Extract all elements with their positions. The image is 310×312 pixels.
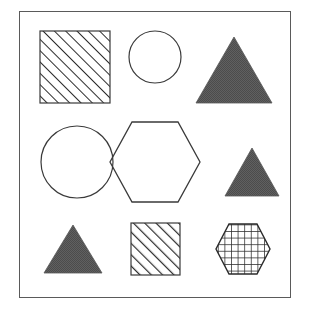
figure-title: Geometric shapes grid bbox=[0, 0, 1, 1]
triangle-solid-large-body bbox=[196, 37, 272, 103]
shape-triangle-solid-medium bbox=[225, 148, 279, 196]
shape-triangle-solid-large bbox=[196, 37, 272, 103]
shape-circle-outline-small bbox=[129, 31, 181, 83]
shape-hexagon-outline-large bbox=[110, 122, 200, 202]
circle-outline-large-body bbox=[41, 126, 113, 198]
panel-frame bbox=[19, 11, 291, 298]
shape-square-hatched-medium bbox=[131, 223, 180, 275]
shape-hexagon-grid-hatched-small bbox=[216, 224, 270, 274]
shape-triangle-solid-small bbox=[44, 225, 102, 273]
circle-outline-small-body bbox=[129, 31, 181, 83]
shape-panel: Geometric shapes grid bbox=[0, 0, 310, 312]
square-hatched-medium-body bbox=[131, 223, 180, 275]
hexagon-grid-hatched-small-body bbox=[216, 224, 270, 274]
shapes-canvas bbox=[19, 11, 291, 298]
square-hatched-large-body bbox=[40, 31, 110, 103]
triangle-solid-small-body bbox=[44, 225, 102, 273]
hexagon-outline-large-body bbox=[110, 122, 200, 202]
triangle-solid-medium-body bbox=[225, 148, 279, 196]
shape-circle-outline-large bbox=[41, 126, 113, 198]
shape-square-hatched-large bbox=[40, 31, 110, 103]
